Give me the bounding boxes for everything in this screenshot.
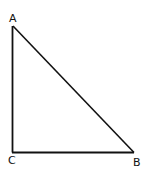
vertex-label-c: C [8, 154, 16, 167]
vertex-label-b: B [133, 156, 141, 169]
vertex-label-a: A [9, 12, 17, 25]
edge-ab [13, 26, 134, 153]
triangle-diagram: A B C [0, 0, 151, 176]
